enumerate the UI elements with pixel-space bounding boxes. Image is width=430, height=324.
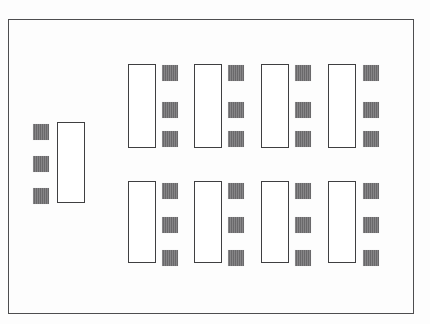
cell-r2-c2-module-1[interactable] xyxy=(228,183,244,199)
cell-r2-c4-module-2[interactable] xyxy=(363,217,379,233)
cell-r1-c4-module-2[interactable] xyxy=(363,102,379,118)
cell-r1-c3-bay[interactable] xyxy=(261,64,289,148)
cell-r1-c3-module-3[interactable] xyxy=(295,131,311,147)
cell-r2-c3-bay[interactable] xyxy=(261,181,289,263)
cell-r1-c1-bay[interactable] xyxy=(128,64,156,148)
left-module-3[interactable] xyxy=(33,188,49,204)
cell-r2-c1-module-3[interactable] xyxy=(162,250,178,266)
cell-r2-c4-bay[interactable] xyxy=(328,181,356,263)
cell-r2-c4-module-1[interactable] xyxy=(363,183,379,199)
cell-r2-c3-module-1[interactable] xyxy=(295,183,311,199)
cell-r2-c1-bay[interactable] xyxy=(128,181,156,263)
cell-r1-c1-module-1[interactable] xyxy=(162,65,178,81)
diagram-canvas xyxy=(0,0,430,324)
cell-r2-c4-module-3[interactable] xyxy=(363,250,379,266)
cell-r1-c1-module-3[interactable] xyxy=(162,131,178,147)
cell-r1-c2-module-1[interactable] xyxy=(228,65,244,81)
left-bay[interactable] xyxy=(57,122,85,203)
cell-r1-c3-module-2[interactable] xyxy=(295,102,311,118)
cell-r2-c1-module-2[interactable] xyxy=(162,217,178,233)
left-module-1[interactable] xyxy=(33,124,49,140)
cell-r2-c2-bay[interactable] xyxy=(194,181,222,263)
cell-r2-c1-module-1[interactable] xyxy=(162,183,178,199)
cell-r1-c4-module-1[interactable] xyxy=(363,65,379,81)
cell-r2-c3-module-2[interactable] xyxy=(295,217,311,233)
cell-r1-c2-module-3[interactable] xyxy=(228,131,244,147)
left-module-2[interactable] xyxy=(33,156,49,172)
cell-r1-c4-bay[interactable] xyxy=(328,64,356,148)
cell-r1-c4-module-3[interactable] xyxy=(363,131,379,147)
cell-r2-c2-module-3[interactable] xyxy=(228,250,244,266)
cell-r1-c1-module-2[interactable] xyxy=(162,102,178,118)
cell-r1-c3-module-1[interactable] xyxy=(295,65,311,81)
cell-r1-c2-bay[interactable] xyxy=(194,64,222,148)
cell-r2-c2-module-2[interactable] xyxy=(228,217,244,233)
cell-r1-c2-module-2[interactable] xyxy=(228,102,244,118)
cell-r2-c3-module-3[interactable] xyxy=(295,250,311,266)
